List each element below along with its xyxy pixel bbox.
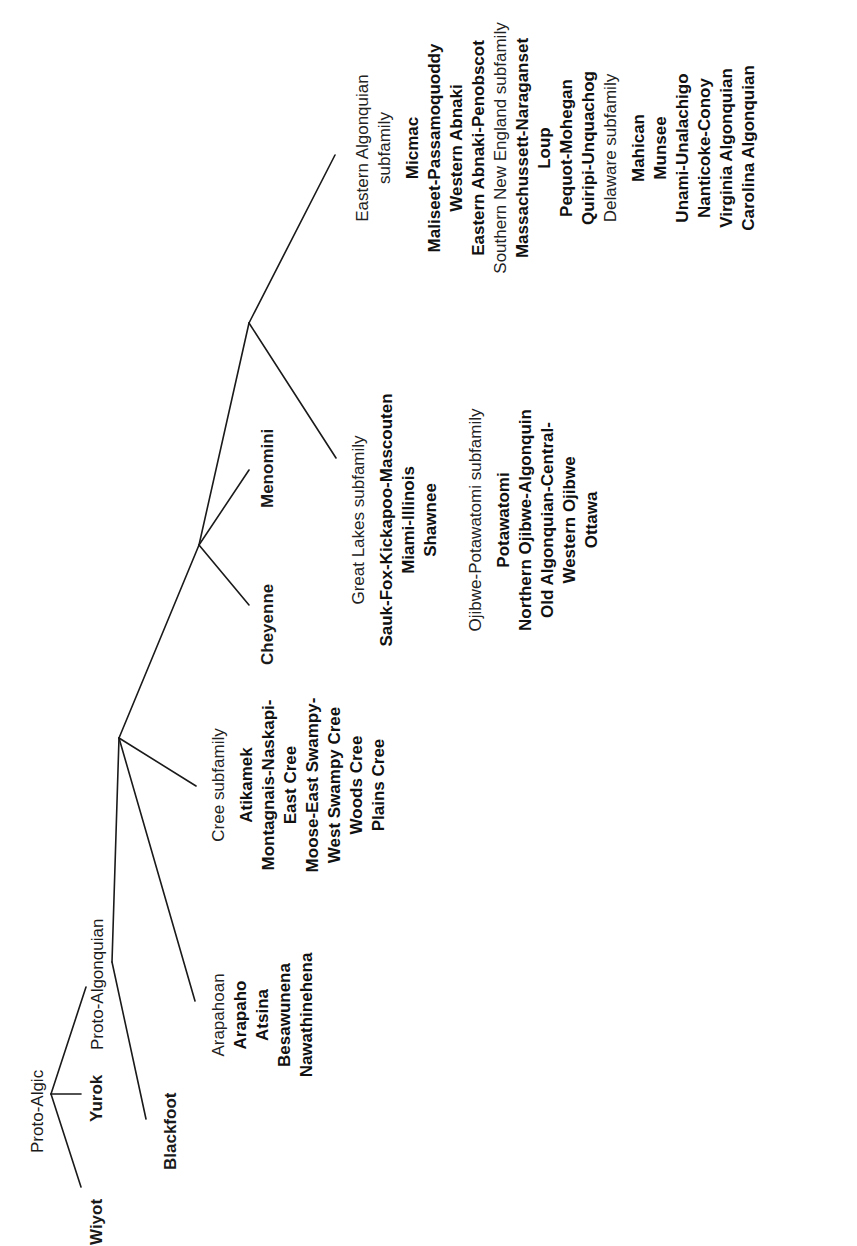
- language-besawunena: Besawunena: [274, 940, 296, 1090]
- language-atsina: Atsina: [252, 940, 274, 1090]
- language-nanticoke-conoy: Nanticoke-Conoy: [694, 0, 716, 296]
- branch-eastern: [249, 155, 335, 323]
- branch-trunk-upper: [119, 545, 199, 738]
- group-cree: Cree subfamily Atikamek Montagnais-Naska…: [208, 670, 390, 900]
- language-potawatomi: Potawatomi: [493, 360, 515, 680]
- language-montagnais-naskapi: Montagnais-Naskapi-: [258, 670, 280, 900]
- group-ojibwe-potawatomi-header: Ojibwe-Potawatomi subfamily: [465, 360, 487, 680]
- language-arapaho: Arapaho: [230, 940, 252, 1090]
- language-micmac: Micmac: [402, 0, 424, 296]
- group-ojibwe-potawatomi: Ojibwe-Potawatomi subfamily Potawatomi N…: [465, 360, 603, 680]
- language-western-ojibwe: Western Ojibwe: [559, 360, 581, 680]
- language-ottawa: Ottawa: [581, 360, 603, 680]
- group-eastern-header-line1: Eastern Algonquian: [352, 0, 374, 296]
- branch-proto-algonquian: [51, 987, 86, 1094]
- node-menomini: Menomini: [257, 429, 279, 508]
- branch-wiyot: [51, 1094, 81, 1187]
- node-wiyot: Wiyot: [86, 1199, 108, 1245]
- branch-trunk-top: [199, 323, 249, 545]
- node-cheyenne: Cheyenne: [257, 584, 279, 665]
- language-virginia-algonquian: Virginia Algonquian: [716, 0, 738, 296]
- language-northern-ojibwe-algonquin: Northern Ojibwe-Algonquin: [515, 360, 537, 680]
- group-great-lakes-header: Great Lakes subfamily: [348, 360, 370, 680]
- language-unami-unalachigo: Unami-Unalachigo: [672, 0, 694, 296]
- language-western-abnaki: Western Abnaki: [446, 0, 468, 296]
- node-proto-algonquian: Proto-Algonquian: [87, 919, 109, 1050]
- node-yurok: Yurok: [86, 1075, 108, 1122]
- language-maliseet-passamoquoddy: Maliseet-Passamoquoddy: [424, 0, 446, 296]
- language-plains-cree: Plains Cree: [368, 670, 390, 900]
- language-loup: Loup: [534, 0, 556, 296]
- language-pequot-mohegan: Pequot-Mohegan: [556, 0, 578, 296]
- language-old-algonquian-central: Old Algonquian-Central-: [537, 360, 559, 680]
- group-cree-header: Cree subfamily: [208, 670, 230, 900]
- language-quiripi-unquachog: Quiripi-Unquachog: [578, 0, 600, 296]
- language-eastern-abnaki-penobscot: Eastern Abnaki-Penobscot: [468, 0, 490, 296]
- group-arapahoan: Arapahoan Arapaho Atsina Besawunena Nawa…: [208, 940, 318, 1090]
- language-nawathinehena: Nawathinehena: [296, 940, 318, 1090]
- branch-cheyenne: [199, 545, 249, 605]
- language-miami-illinois: Miami-Illinois: [398, 360, 420, 680]
- node-proto-algic: Proto-Algic: [27, 1070, 49, 1153]
- language-atikamek: Atikamek: [236, 670, 258, 900]
- language-east-cree: East Cree: [280, 670, 302, 900]
- group-arapahoan-header: Arapahoan: [208, 940, 230, 1090]
- group-great-lakes: Great Lakes subfamily Sauk-Fox-Kickapoo-…: [348, 360, 442, 680]
- language-west-swampy-cree: West Swampy Cree: [324, 670, 346, 900]
- branch-menomini: [199, 470, 249, 545]
- node-blackfoot: Blackfoot: [160, 1093, 182, 1170]
- group-southern-new-england-header: Southern New England subfamily: [490, 0, 512, 296]
- language-moose-east-swampy: Moose-East Swampy-: [302, 670, 324, 900]
- group-eastern-algonquian: Eastern Algonquian subfamily Micmac Mali…: [352, 0, 760, 296]
- language-woods-cree: Woods Cree: [346, 670, 368, 900]
- language-carolina-algonquian: Carolina Algonquian: [738, 0, 760, 296]
- group-eastern-header-line2: subfamily: [374, 0, 396, 296]
- group-delaware-header: Delaware subfamily: [600, 0, 622, 296]
- language-munsee: Munsee: [650, 0, 672, 296]
- language-massachussett-naraganset: Massachussett-Naraganset: [512, 0, 534, 296]
- language-sauk-fox-kickapoo-mascouten: Sauk-Fox-Kickapoo-Mascouten: [376, 360, 398, 680]
- language-mahican: Mahican: [628, 0, 650, 296]
- branch-blackfoot: [112, 962, 146, 1119]
- language-shawnee: Shawnee: [420, 360, 442, 680]
- branch-arapahoan: [112, 738, 119, 962]
